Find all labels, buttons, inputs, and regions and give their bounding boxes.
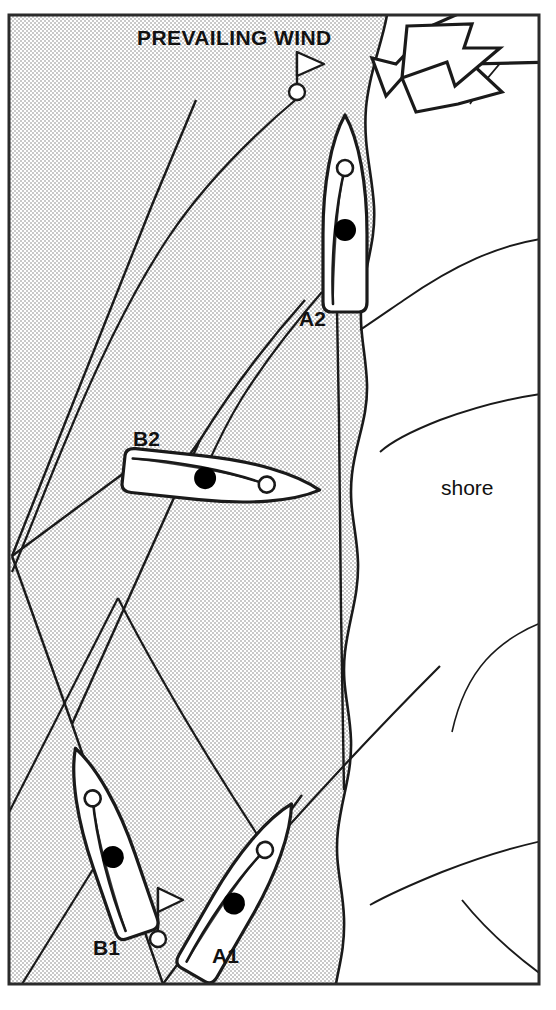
buoy-float-icon (150, 931, 166, 947)
prevailing-wind-label: PREVAILING WIND (137, 26, 332, 49)
buoy-float-icon (289, 84, 305, 100)
crew-marker-white-b2 (258, 476, 276, 494)
diagram-canvas: PREVAILING WIND shore A2 B2 B1 A1 (0, 0, 556, 1010)
sailing-tactics-diagram: PREVAILING WIND shore A2 B2 B1 A1 (0, 0, 556, 1010)
boat-label-b1: B1 (93, 936, 120, 959)
boat-label-b2: B2 (133, 427, 160, 450)
boat-label-a1: A1 (212, 944, 239, 967)
crew-marker-black-a2 (334, 219, 356, 241)
crew-marker-white-a2 (337, 160, 353, 176)
shore-label: shore (441, 476, 494, 499)
boat-label-a2: A2 (299, 307, 326, 330)
